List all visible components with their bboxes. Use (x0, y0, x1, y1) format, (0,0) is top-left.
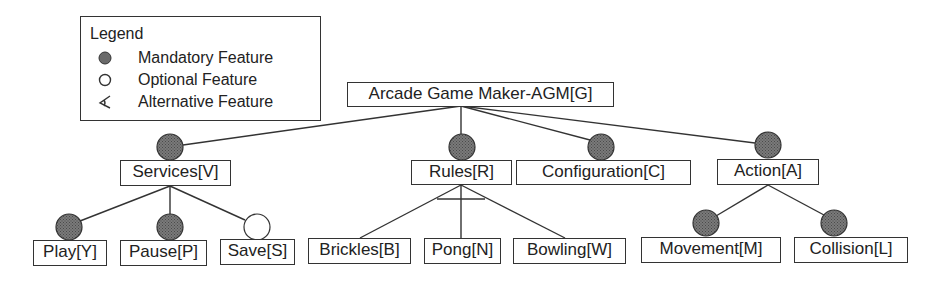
mandatory-marker-rules (449, 134, 475, 160)
mandatory-marker-collision (821, 210, 847, 236)
feature-root: Arcade Game Maker-AGM[G] (347, 82, 614, 107)
feature-action: Action[A] (717, 159, 819, 185)
mandatory-marker-configuration (588, 134, 614, 160)
legend-title: Legend (90, 25, 143, 43)
feature-services: Services[V] (120, 160, 231, 186)
mandatory-marker-play (56, 214, 82, 240)
alternative-arc-icon (98, 95, 112, 109)
feature-save: Save[S] (220, 239, 295, 265)
mandatory-marker-action (755, 132, 781, 158)
optional-circle-icon (98, 73, 112, 87)
legend: Legend Mandatory Feature Optional Featur… (80, 16, 321, 121)
feature-pause: Pause[P] (120, 240, 207, 266)
feature-play: Play[Y] (33, 240, 107, 266)
feature-configuration: Configuration[C] (516, 160, 691, 185)
mandatory-marker-movement (693, 210, 719, 236)
feature-brickles: Brickles[B] (308, 238, 411, 264)
mandatory-marker-services (157, 134, 183, 160)
feature-rules: Rules[R] (411, 160, 512, 185)
feature-movement: Movement[M] (641, 237, 781, 263)
feature-pong: Pong[N] (424, 238, 501, 264)
mandatory-circle-icon (98, 51, 112, 65)
feature-bowling: Bowling[W] (513, 238, 626, 264)
mandatory-marker-pause (157, 214, 183, 240)
optional-marker-save (244, 214, 270, 240)
feature-collision: Collision[L] (794, 237, 908, 263)
